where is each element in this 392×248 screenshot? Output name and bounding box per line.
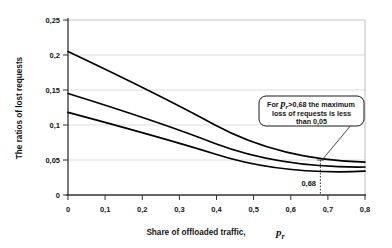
- x-tick-label-02: 0,2: [137, 205, 147, 214]
- y-tick-label-02: 0,2: [50, 51, 60, 60]
- x-tick-label-03: 0,3: [174, 205, 184, 214]
- x-tick-label-01: 0,1: [100, 205, 110, 214]
- y-tick-label-01: 0,1: [50, 121, 60, 130]
- x-axis-title: Share of offloaded traffic, pr: [146, 226, 285, 241]
- x-axis-ticks: [68, 195, 365, 200]
- x-axis-title-main: Share of offloaded traffic,: [146, 228, 245, 237]
- y-tick-label-025: 0,25: [45, 16, 60, 25]
- x-tick-label-07: 0,7: [323, 205, 333, 214]
- x-tick-label-06: 0,6: [286, 205, 296, 214]
- y-tick-label-0: 0: [56, 191, 60, 200]
- y-tick-label-005: 0,05: [45, 156, 60, 165]
- callout-line-3: than 0,05: [296, 117, 327, 126]
- x-axis-var-sub-r: r: [282, 232, 286, 241]
- chart-figure: 0,25 0,2 0,15 0,1 0,05 0 0 0,1 0,2 0,3 0…: [0, 0, 392, 248]
- x-tick-label-08: 0,8: [360, 205, 370, 214]
- y-axis-title: The ratios of lost requests: [15, 56, 24, 159]
- x-tick-label-05: 0,5: [248, 205, 258, 214]
- y-tick-label-015: 0,15: [45, 86, 60, 95]
- y-axis-ticks: [63, 20, 68, 195]
- threshold-marker-label: 0,68: [301, 179, 316, 188]
- x-tick-label-04: 0,4: [211, 205, 222, 214]
- line-chart: 0,25 0,2 0,15 0,1 0,05 0 0 0,1 0,2 0,3 0…: [0, 0, 392, 248]
- x-tick-label-0: 0: [66, 205, 70, 214]
- x-axis-title-variable: pr: [275, 226, 286, 241]
